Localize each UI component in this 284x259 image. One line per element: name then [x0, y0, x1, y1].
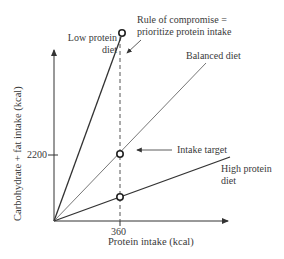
y-tick-label: 2200: [27, 149, 47, 161]
low-protein-label-line1: Low protein: [62, 32, 117, 44]
rule-label-line2: prioritize protein intake: [137, 26, 231, 38]
high-protein-label-line1: High protein: [221, 163, 272, 175]
balanced-line: [54, 63, 206, 221]
high-protein-label: High protein diet: [221, 163, 272, 187]
rule-label-line1: Rule of compromise =: [137, 14, 231, 26]
low-protein-label: Low protein diet: [62, 32, 117, 56]
diagram-graphics: [0, 0, 284, 259]
low-protein-line: [54, 37, 121, 221]
intake-target-point: [117, 151, 123, 157]
high-protein-point: [117, 194, 123, 200]
balanced-diet-label: Balanced diet: [186, 50, 241, 62]
diagram: Carbohydrate + fat intake (kcal) Protein…: [0, 0, 284, 259]
rule-label: Rule of compromise = prioritize protein …: [137, 14, 231, 38]
intake-target-label: Intake target: [177, 144, 227, 156]
rule-pointer-arrow: [127, 40, 141, 53]
high-protein-line: [54, 157, 230, 221]
low-protein-point: [119, 30, 125, 36]
x-tick-label: 360: [111, 226, 126, 238]
y-axis-label: Carbohydrate + fat intake (kcal): [12, 86, 23, 221]
low-protein-label-line2: diet: [62, 44, 117, 56]
high-protein-label-line2: diet: [221, 175, 272, 187]
